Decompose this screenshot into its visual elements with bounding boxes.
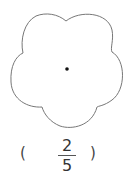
fraction-answer: ( 2 5 ) — [0, 136, 129, 172]
close-paren: ) — [90, 144, 96, 162]
flower-figure — [0, 0, 129, 135]
denominator: 5 — [57, 156, 77, 175]
center-dot — [65, 67, 69, 71]
numerator: 2 — [57, 136, 77, 155]
open-paren: ( — [20, 144, 26, 162]
